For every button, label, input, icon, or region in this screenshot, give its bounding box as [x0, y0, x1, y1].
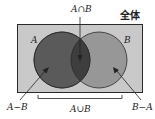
union-bracket — [38, 95, 122, 99]
universe-label: 全体 — [120, 11, 140, 21]
intersection-label: A∩B — [71, 5, 92, 14]
b-minus-a-label: B−A — [132, 103, 153, 112]
set-a-label: A — [31, 36, 38, 45]
a-minus-b-label: A−B — [7, 103, 28, 112]
union-label: A∪B — [70, 105, 91, 114]
set-b-label: B — [124, 36, 131, 45]
